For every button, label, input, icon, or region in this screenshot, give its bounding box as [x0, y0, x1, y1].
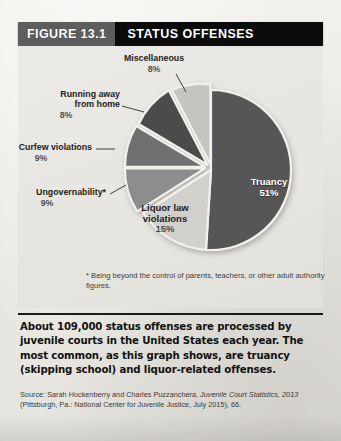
- source-suffix: (Pittsburgh, Pa.: National Center for Ju…: [20, 400, 241, 409]
- source-prefix: Source: Sarah Hockenberry and Charles Pu…: [20, 390, 200, 399]
- figure-title: STATUS OFFENSES: [115, 22, 323, 46]
- figure-source-line: Source: Sarah Hockenberry and Charles Pu…: [20, 390, 322, 411]
- slice-callout-curfew-name: Curfew violations: [19, 142, 92, 152]
- figure-number-label: FIGURE 13.1: [18, 22, 115, 46]
- slice-callout-miscellaneous-pct: 8%: [106, 65, 202, 75]
- figure-caption: About 109,000 status offenses are proces…: [20, 320, 320, 378]
- slice-callout-running-name-line2: from home: [75, 99, 120, 109]
- chart-footnote: * Being beyond the control of parents, t…: [86, 271, 326, 292]
- slice-callout-ungovernability-pct: 9%: [18, 199, 106, 209]
- slice-callout-curfew-pct: 9%: [12, 154, 92, 164]
- slice-label-truancy-name: Truancy: [251, 176, 287, 187]
- slice-label-truancy-pct: 51%: [259, 187, 278, 198]
- slice-callout-miscellaneous-name: Miscellaneous: [124, 53, 184, 63]
- slice-callout-ungovernability-name: Ungovernability*: [36, 187, 106, 197]
- slice-callout-ungovernability: Ungovernability* 9%: [18, 188, 106, 209]
- slice-callout-miscellaneous: Miscellaneous 8%: [106, 54, 202, 75]
- slice-label-liquor-name-line2: violations: [143, 213, 187, 224]
- source-title: Juvenile Court Statistics, 2013: [200, 390, 298, 399]
- slice-label-liquor-name-line1: Liquor law: [141, 202, 189, 213]
- slice-callout-curfew-violations: Curfew violations 9%: [12, 143, 92, 164]
- chart-panel: Truancy 51% Liquor law violations 15% Mi…: [18, 46, 323, 308]
- slice-label-liquor-law-violations: Liquor law violations 15%: [122, 203, 208, 235]
- slice-label-liquor-pct: 15%: [155, 223, 174, 234]
- pie-chart: Truancy 51% Liquor law violations 15%: [18, 46, 323, 308]
- slice-callout-running-pct: 8%: [26, 111, 120, 121]
- slice-callout-running-away-from-home: Running away from home 8%: [26, 90, 120, 121]
- figure-page: FIGURE 13.1 STATUS OFFENSES: [0, 0, 341, 441]
- pie-slice-truancy[interactable]: [206, 90, 291, 250]
- slice-label-truancy: Truancy 51%: [230, 177, 308, 198]
- figure-header-bar: FIGURE 13.1 STATUS OFFENSES: [18, 22, 323, 46]
- leader-line-ungovernability: [110, 185, 126, 194]
- slice-callout-running-name-line1: Running away: [60, 89, 120, 99]
- leader-line-running-away: [122, 106, 144, 112]
- caption-divider-rule: [18, 313, 323, 315]
